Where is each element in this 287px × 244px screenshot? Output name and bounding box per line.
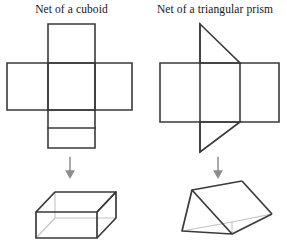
solid-hidden-edge-bottom-front [36, 218, 55, 238]
solid-edge-right-base [232, 214, 272, 234]
net-top-triangle [200, 24, 240, 63]
prism-diagram [143, 0, 287, 244]
arrow-head [214, 171, 221, 178]
cuboid-solid [36, 192, 116, 238]
arrow-head [66, 171, 73, 178]
prism-solid [182, 181, 272, 234]
net-rectangle [160, 63, 279, 122]
prism-net [160, 24, 279, 152]
solid-hidden-edge-b [232, 214, 272, 222]
solid-edge-apex [192, 181, 242, 190]
cuboid-arrow [66, 157, 73, 178]
solid-edge-top-right [242, 181, 272, 214]
solid-top-face [36, 192, 116, 212]
solid-right-face [97, 192, 116, 238]
cuboid-diagram [0, 0, 143, 244]
figure-triangular-prism: Net of a triangular prism [143, 0, 287, 244]
figure-cuboid: Net of a cuboid [0, 0, 143, 244]
prism-arrow [214, 157, 221, 178]
cuboid-net [7, 24, 132, 148]
solid-front-face [36, 212, 97, 238]
net-vertical-strip [48, 24, 95, 148]
solid-front-triangle [182, 190, 232, 234]
net-bottom-triangle [200, 122, 240, 152]
net-horizontal-strip [7, 63, 132, 110]
